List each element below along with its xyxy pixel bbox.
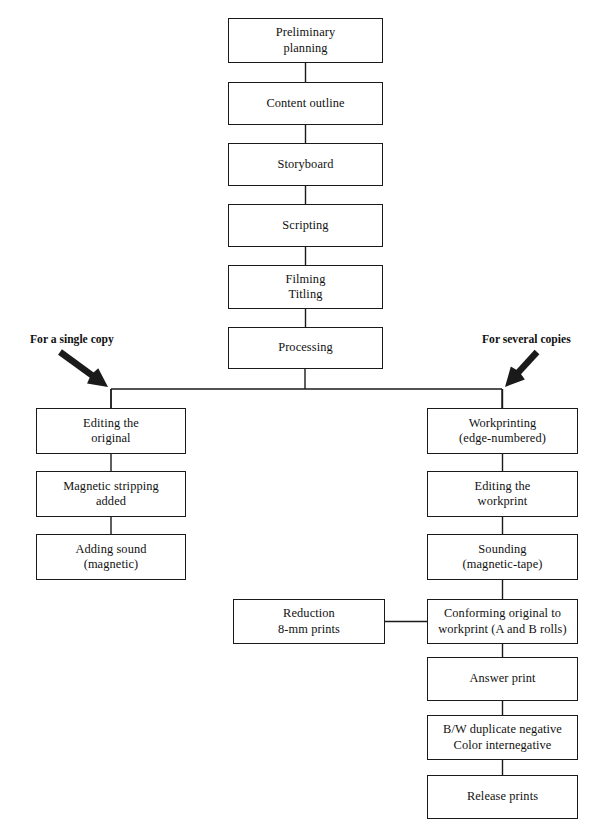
- node-label: Adding sound (magnetic): [75, 542, 146, 572]
- arrow-single-copy-shaft: [60, 352, 96, 378]
- node-label: Processing: [278, 340, 333, 355]
- node-label: Filming Titling: [286, 272, 326, 302]
- arrow-several-copies: [505, 352, 537, 387]
- node-workprinting[interactable]: Workprinting (edge-numbered): [427, 408, 578, 454]
- node-magnetic-stripping[interactable]: Magnetic stripping added: [36, 471, 186, 517]
- node-editing-the-original[interactable]: Editing the original: [36, 408, 186, 454]
- node-label: Magnetic stripping added: [63, 479, 159, 509]
- node-label: Answer print: [469, 671, 535, 686]
- node-label: Scripting: [282, 218, 328, 233]
- node-label: Storyboard: [277, 157, 333, 172]
- node-label: Content outline: [266, 96, 344, 111]
- node-duplicate-negative[interactable]: B/W duplicate negative Color internegati…: [427, 715, 578, 760]
- arrow-single-copy: [60, 352, 108, 387]
- node-scripting[interactable]: Scripting: [228, 204, 383, 247]
- arrow-several-copies-head: [505, 367, 525, 387]
- arrow-several-copies-shaft: [515, 352, 537, 376]
- node-conforming-original[interactable]: Conforming original to workprint (A and …: [427, 599, 578, 644]
- node-label: Workprinting (edge-numbered): [459, 416, 546, 446]
- branch-label-for-several-copies: For several copies: [482, 333, 571, 346]
- node-adding-sound[interactable]: Adding sound (magnetic): [36, 534, 186, 580]
- node-release-prints[interactable]: Release prints: [427, 775, 578, 819]
- node-label: Preliminary planning: [276, 25, 336, 55]
- node-label: Editing the workprint: [475, 479, 531, 509]
- branch-label-for-a-single-copy: For a single copy: [30, 333, 114, 346]
- node-label: Conforming original to workprint (A and …: [438, 606, 566, 636]
- node-label: B/W duplicate negative Color internegati…: [443, 722, 562, 752]
- node-label: Release prints: [467, 789, 538, 804]
- node-answer-print[interactable]: Answer print: [427, 657, 578, 701]
- node-sounding[interactable]: Sounding (magnetic-tape): [427, 534, 578, 580]
- node-label: Editing the original: [83, 416, 139, 446]
- node-processing[interactable]: Processing: [228, 327, 383, 369]
- node-storyboard[interactable]: Storyboard: [228, 143, 383, 186]
- node-label: Sounding (magnetic-tape): [463, 542, 543, 572]
- node-filming-titling[interactable]: Filming Titling: [228, 265, 383, 309]
- node-content-outline[interactable]: Content outline: [228, 82, 383, 125]
- node-label: Reduction 8-mm prints: [278, 606, 340, 636]
- flowchart-canvas: Preliminary planningContent outlineStory…: [0, 0, 612, 829]
- node-reduction[interactable]: Reduction 8-mm prints: [233, 599, 385, 644]
- node-preliminary-planning[interactable]: Preliminary planning: [228, 18, 383, 63]
- arrow-single-copy-head: [87, 368, 108, 387]
- node-editing-the-workprint[interactable]: Editing the workprint: [427, 471, 578, 517]
